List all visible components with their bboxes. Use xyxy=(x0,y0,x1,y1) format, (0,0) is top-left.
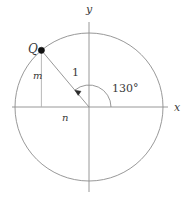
point-q-label: Q xyxy=(28,43,38,55)
unit-circle-figure: y x Q m n 1 130° xyxy=(0,0,191,197)
terminal-ray-segment xyxy=(41,50,89,107)
y-axis-label: y xyxy=(86,4,92,15)
figure-canvas xyxy=(0,0,191,197)
angle-arc-arrowhead xyxy=(75,90,81,95)
x-axis-label: x xyxy=(174,102,180,113)
radius-length-label: 1 xyxy=(72,67,79,78)
point-q-marker xyxy=(38,47,44,53)
angle-measure-label: 130° xyxy=(112,83,139,94)
opposite-side-label: m xyxy=(33,71,42,81)
adjacent-side-label: n xyxy=(62,113,68,123)
